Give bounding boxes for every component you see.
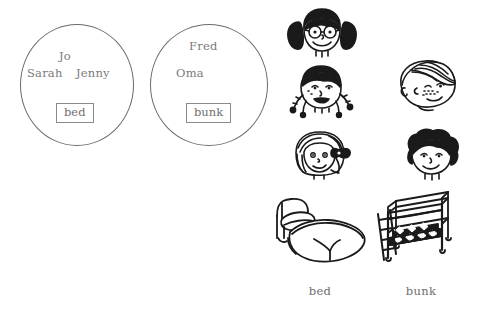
child-with-braids-icon [286,63,358,123]
group-circle-bed[interactable] [20,24,134,146]
member-name-fred: Fred [189,40,217,53]
member-name-oma: Oma [176,67,204,80]
worksheet-canvas: Jo Sarah Jenny bed Fred Oma bunk [0,0,489,315]
boy-with-curly-hair-icon [396,128,466,184]
bunk-illustration[interactable] [374,184,470,276]
member-name-jenny: Jenny [76,67,110,80]
group-label-box-bunk[interactable]: bunk [186,103,231,123]
caption-bunk: bunk [393,285,449,298]
face-girl-glasses-pigtails[interactable] [284,6,360,68]
face-boy-curly[interactable] [396,128,466,184]
girl-with-hair-bow-icon [284,128,360,182]
single-bed-icon [268,194,372,274]
group-label-box-bed[interactable]: bed [56,103,94,123]
boy-with-freckles-icon [393,58,463,116]
member-name-sarah: Sarah [27,67,63,80]
face-girl-bow[interactable] [284,128,360,182]
bunk-bed-icon [374,184,470,276]
member-name-jo: Jo [59,50,71,63]
caption-bed: bed [292,285,348,298]
face-boy-freckles[interactable] [393,58,463,116]
girl-with-glasses-and-pigtails-icon [284,6,360,68]
face-child-braids[interactable] [286,63,358,123]
bed-illustration[interactable] [268,194,372,274]
